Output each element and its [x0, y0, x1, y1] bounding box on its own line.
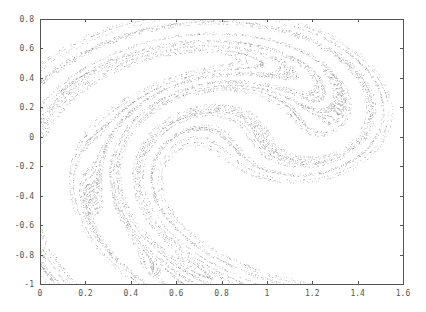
y-tick-label: 0 — [29, 133, 34, 142]
plot-background — [40, 19, 403, 284]
x-tick-label: 0.6 — [169, 289, 184, 298]
y-tick-label: 0.6 — [20, 44, 35, 53]
x-tick-label: 0.8 — [214, 289, 229, 298]
y-tick-label: -0.2 — [15, 162, 34, 171]
x-tick-label: 0.4 — [124, 289, 139, 298]
x-tick-label: 1 — [264, 289, 269, 298]
y-tick-label: -0.4 — [15, 192, 34, 201]
x-tick-label: 0.2 — [78, 289, 93, 298]
x-tick-label: 1.6 — [396, 289, 411, 298]
x-tick-label: 1.2 — [305, 289, 320, 298]
scatter-chart: 00.20.40.60.811.21.41.6 0.80.60.40.20-0.… — [0, 0, 426, 312]
y-tick-label: 0.8 — [20, 15, 35, 24]
y-tick-label: 0.2 — [20, 103, 35, 112]
y-tick-label: -0.8 — [15, 251, 34, 260]
x-tick-label: 1.4 — [350, 289, 365, 298]
x-tick-label: 0 — [38, 289, 43, 298]
y-tick-label: -1 — [24, 280, 34, 289]
y-tick-label: -0.6 — [15, 221, 34, 230]
y-tick-label: 0.4 — [20, 74, 35, 83]
